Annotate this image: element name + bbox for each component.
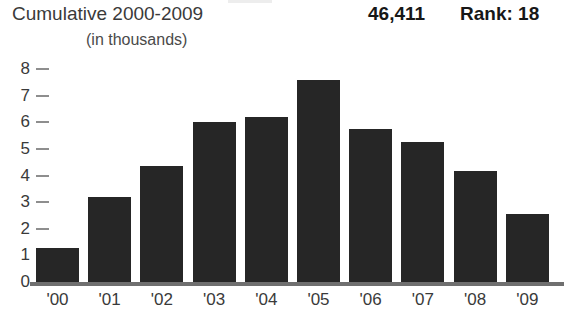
bar <box>506 214 549 283</box>
x-axis-tick-label: '03 <box>193 290 236 310</box>
bar <box>88 197 131 283</box>
bar <box>36 248 79 283</box>
bar <box>349 129 392 283</box>
bars-layer <box>0 0 580 283</box>
x-axis-tick-label: '06 <box>349 290 392 310</box>
x-axis-tick-label: '00 <box>36 290 79 310</box>
x-axis-tick-label: '02 <box>140 290 183 310</box>
x-axis-tick-label: '05 <box>297 290 340 310</box>
x-axis-tick-label: '09 <box>506 290 549 310</box>
x-axis-tick-label: '08 <box>454 290 497 310</box>
bar-chart-panel: Cumulative 2000-2009 46,411 Rank: 18 (in… <box>0 0 580 319</box>
x-axis-line <box>30 282 564 286</box>
x-axis-tick-label: '01 <box>88 290 131 310</box>
bar <box>193 122 236 283</box>
bar <box>245 117 288 283</box>
bar <box>401 142 444 283</box>
x-axis-tick-label: '04 <box>245 290 288 310</box>
bar <box>297 80 340 283</box>
plot-area: 012345678 '00'01'02'03'04'05'06'07'08'09 <box>0 0 580 319</box>
bar <box>140 166 183 283</box>
x-axis-tick-label: '07 <box>401 290 444 310</box>
bar <box>454 171 497 283</box>
